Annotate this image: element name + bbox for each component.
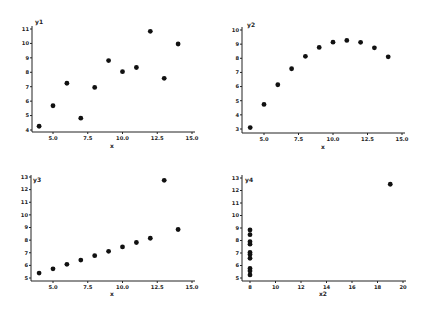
y-tick-label: 9 — [235, 41, 239, 47]
x-tick-label: 14 — [323, 284, 331, 290]
y-tick-label: 5 — [235, 98, 239, 104]
data-point — [51, 103, 56, 108]
data-point — [162, 178, 167, 183]
x-tick-label: 10.0 — [116, 135, 129, 141]
panel-4-ylabel: y4 — [245, 176, 253, 184]
data-point — [148, 29, 153, 34]
x-tick-label: 5.0 — [259, 136, 269, 142]
data-point — [372, 45, 377, 50]
x-tick-label: 10.0 — [116, 284, 129, 290]
data-point — [120, 245, 125, 250]
y-tick-label: 8 — [25, 69, 29, 75]
y-tick-label: 10 — [232, 27, 240, 33]
x-tick-label: 15.0 — [186, 284, 199, 290]
data-point — [106, 249, 111, 254]
x-tick-label: 15.0 — [396, 136, 409, 142]
y-tick-label: 8 — [235, 237, 239, 243]
x-tick-label: 8 — [248, 284, 252, 290]
anscombe-quartet-figure: y1 x 5.07.510.012.515.04567891011 y2 x 5… — [0, 0, 430, 310]
data-point — [134, 240, 139, 245]
panel-1-xlabel: x — [110, 142, 114, 149]
y-tick-label: 6 — [25, 98, 29, 104]
x-tick-label: 16 — [348, 284, 356, 290]
y-tick-label: 5 — [25, 112, 29, 118]
x-tick-label: 10.0 — [327, 136, 340, 142]
y-tick-label: 10 — [22, 40, 30, 46]
data-point — [65, 262, 70, 267]
data-point — [162, 76, 167, 81]
data-point — [120, 69, 125, 74]
panel-3-ylabel: y3 — [33, 176, 41, 184]
x-tick-label: 7.5 — [83, 135, 93, 141]
y-tick-label: 4 — [25, 127, 29, 133]
y-tick-label: 4 — [235, 112, 239, 118]
data-point — [248, 252, 253, 257]
data-point — [275, 82, 280, 87]
y-tick-label: 10 — [21, 212, 29, 218]
panel-1-ylabel: y1 — [35, 18, 43, 26]
data-point — [248, 269, 253, 274]
y-tick-label: 6 — [235, 83, 239, 89]
x-tick-label: 7.5 — [83, 284, 93, 290]
data-point — [92, 253, 97, 258]
y-tick-label: 9 — [24, 224, 28, 230]
y-tick-label: 7 — [24, 250, 28, 256]
y-tick-label: 6 — [24, 262, 28, 268]
x-tick-label: 18 — [374, 284, 382, 290]
y-tick-label: 7 — [235, 250, 239, 256]
data-point — [148, 236, 153, 241]
y-tick-label: 13 — [21, 174, 29, 180]
panel-2-xlabel: x — [321, 143, 325, 150]
data-point — [289, 66, 294, 71]
panel-1: y1 x 5.07.510.012.515.04567891011 — [22, 18, 199, 149]
data-point — [317, 45, 322, 50]
data-point — [134, 65, 139, 70]
x-tick-label: 12.5 — [361, 136, 374, 142]
y-tick-label: 12 — [21, 186, 29, 192]
panel-4-xlabel: x2 — [319, 290, 327, 297]
data-point — [51, 266, 56, 271]
data-point — [176, 42, 181, 47]
figure-canvas: y1 x 5.07.510.012.515.04567891011 y2 x 5… — [0, 0, 430, 310]
y-tick-label: 6 — [235, 262, 239, 268]
panel-2-ylabel: y2 — [247, 21, 255, 29]
panel-3-xlabel: x — [110, 290, 114, 297]
data-point — [248, 239, 253, 244]
y-tick-label: 11 — [232, 200, 240, 206]
y-tick-label: 9 — [235, 225, 239, 231]
data-point — [388, 182, 393, 187]
x-tick-label: 15.0 — [186, 135, 199, 141]
y-tick-label: 7 — [25, 84, 29, 90]
panel-4: y4 x2 81012141618205678910111213 — [232, 175, 407, 297]
data-point — [92, 85, 97, 90]
y-tick-label: 11 — [21, 199, 29, 205]
x-tick-label: 20 — [399, 284, 407, 290]
panel-3: y3 x 5.07.510.012.515.05678910111213 — [21, 174, 199, 297]
data-point — [331, 40, 336, 45]
y-tick-label: 10 — [232, 212, 240, 218]
x-tick-label: 7.5 — [294, 136, 304, 142]
data-point — [248, 232, 253, 237]
x-tick-label: 10 — [272, 284, 280, 290]
x-tick-label: 12.5 — [151, 135, 164, 141]
x-tick-label: 5.0 — [48, 284, 58, 290]
y-tick-label: 13 — [232, 175, 240, 181]
y-tick-label: 8 — [24, 237, 28, 243]
x-tick-label: 12 — [297, 284, 305, 290]
x-tick-label: 5.0 — [48, 135, 58, 141]
y-tick-label: 8 — [235, 55, 239, 61]
data-point — [303, 54, 308, 59]
data-point — [248, 125, 253, 130]
data-point — [358, 40, 363, 45]
x-tick-label: 12.5 — [151, 284, 164, 290]
data-point — [37, 271, 42, 276]
data-point — [65, 81, 70, 86]
y-tick-label: 3 — [235, 126, 239, 132]
data-point — [106, 58, 111, 63]
data-point — [386, 54, 391, 59]
data-point — [37, 124, 42, 129]
data-point — [344, 38, 349, 43]
data-point — [78, 116, 83, 121]
data-point — [176, 227, 181, 232]
y-tick-label: 5 — [24, 275, 28, 281]
